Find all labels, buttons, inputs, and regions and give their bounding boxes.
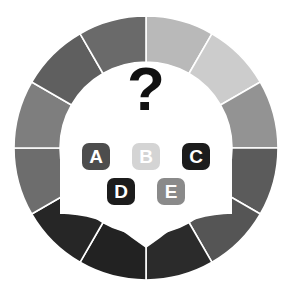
answer-wheel-chart — [0, 0, 292, 294]
inner-circle — [60, 62, 232, 234]
quiz-wheel-figure: ? A B C D E — [0, 0, 292, 294]
